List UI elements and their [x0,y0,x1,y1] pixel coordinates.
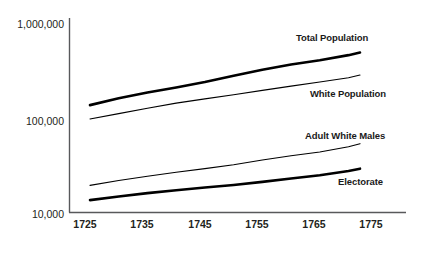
x-tick-label-1775: 1775 [351,218,391,230]
series-label-total-population: Total Population [296,32,368,43]
series-layer [90,53,360,201]
y-tick-label-10000: 10,000 [4,208,64,220]
series-label-adult-white-males: Adult White Males [305,130,385,141]
chart-container: 1,000,000 100,000 10,000 1725 1735 1745 … [0,0,421,253]
x-tick-label-1765: 1765 [294,218,334,230]
series-label-electorate: Electorate [338,176,383,187]
x-tick-label-1755: 1755 [237,218,277,230]
series-line-adult-white-males [90,144,360,186]
series-label-white-population: White Population [310,88,386,99]
y-tick-label-100000: 100,000 [4,115,64,127]
y-tick-label-1000000: 1,000,000 [4,18,64,30]
series-line-electorate [90,169,360,200]
x-tick-label-1735: 1735 [122,218,162,230]
x-tick-label-1745: 1745 [180,218,220,230]
x-tick-label-1725: 1725 [65,218,105,230]
